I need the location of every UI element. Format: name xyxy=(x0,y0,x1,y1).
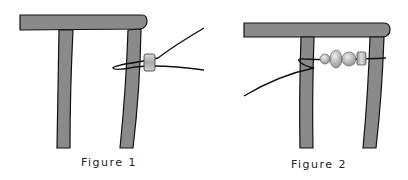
oval-bead xyxy=(330,50,342,68)
figure-1: Figure 1 xyxy=(0,0,204,180)
bar-bead xyxy=(144,54,155,71)
frame-right-leg xyxy=(120,29,141,148)
wire xyxy=(113,28,204,70)
frame-top-bar xyxy=(20,15,147,30)
figure-caption: Figure 1 xyxy=(81,156,137,169)
frame-top-bar xyxy=(244,23,390,37)
round-bead xyxy=(342,52,356,66)
figure-caption: Figure 2 xyxy=(291,158,347,171)
frame-left-leg xyxy=(57,30,73,148)
small-round-bead xyxy=(320,54,330,64)
cylinder-bead xyxy=(357,52,366,65)
figure-1-illustration xyxy=(0,0,204,180)
frame-left-leg xyxy=(300,37,314,148)
figure-2-illustration xyxy=(204,0,408,180)
figure-2: Figure 2 xyxy=(204,0,408,180)
